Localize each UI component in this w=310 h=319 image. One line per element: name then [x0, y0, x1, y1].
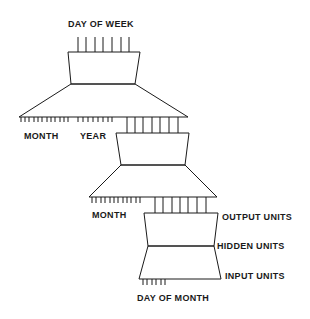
- top-month-input-ticks: [21, 117, 68, 122]
- bottom-hidden-to-input-layer: [139, 246, 221, 279]
- bottom-output-lines: [155, 197, 206, 213]
- middle-month-label: MONTH: [92, 211, 127, 220]
- network-diagram: DAY OF WEEK MONTH YEAR MONTH OUTPUT UNIT…: [0, 0, 310, 319]
- day-of-week-label: DAY OF WEEK: [68, 20, 134, 29]
- middle-month-input-ticks: [92, 197, 140, 203]
- top-output-lines: [78, 37, 129, 52]
- top-hidden-to-input-layer: [19, 84, 188, 117]
- day-of-month-input-ticks: [143, 279, 165, 285]
- top-month-label: MONTH: [24, 132, 59, 141]
- middle-hidden-to-input-layer: [89, 165, 217, 197]
- hidden-units-label: HIDDEN UNITS: [217, 242, 285, 251]
- top-year-input-ticks: [78, 117, 112, 122]
- year-label: YEAR: [80, 132, 106, 141]
- output-units-label: OUTPUT UNITS: [222, 213, 292, 222]
- top-output-to-hidden-layer: [68, 52, 140, 84]
- middle-output-to-hidden-layer: [116, 133, 189, 165]
- bottom-output-to-hidden-layer: [144, 213, 218, 246]
- middle-output-lines: [127, 117, 178, 133]
- input-units-label: INPUT UNITS: [225, 272, 285, 281]
- day-of-month-label: DAY OF MONTH: [137, 294, 209, 303]
